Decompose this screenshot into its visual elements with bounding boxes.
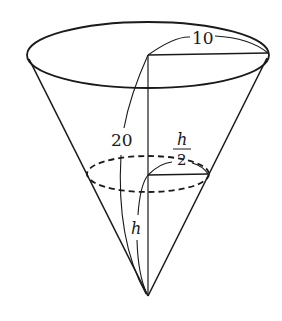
label-water-height: h (131, 219, 141, 238)
cone-left-side (29, 59, 148, 296)
top-radius-line (148, 53, 268, 55)
slant-dimension-arc-upper (124, 55, 148, 128)
label-water-radius-denominator: 2 (177, 151, 187, 169)
water-height-arc-upper (138, 175, 148, 215)
water-radius-line (148, 174, 208, 175)
label-slant-height: 20 (111, 130, 133, 150)
label-water-radius-numerator: h (177, 130, 187, 149)
cone-diagram: 10 20 h 2 h (0, 0, 282, 321)
cone-figure: 10 20 h 2 h (0, 0, 282, 321)
label-radius-top: 10 (192, 28, 214, 48)
